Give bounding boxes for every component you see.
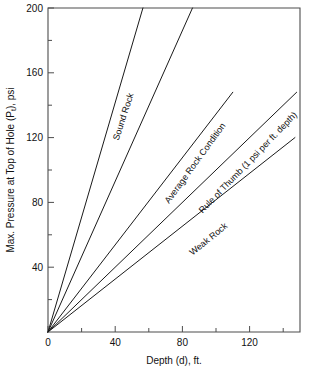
chart-canvas: 040801204080120160200 Sound RockAverage … bbox=[0, 0, 310, 376]
y-axis-title-main: Max. Pressure at Top of Hole (P bbox=[5, 111, 16, 253]
y-tick-label: 120 bbox=[26, 132, 43, 143]
x-axis-title: Depth (d), ft. bbox=[146, 355, 202, 366]
y-axis-title: Max. Pressure at Top of Hole (Pt), psi bbox=[5, 87, 17, 252]
y-tick-label: 200 bbox=[26, 3, 43, 14]
x-tick-label: 40 bbox=[110, 337, 122, 348]
chart-figure: 040801204080120160200 Sound RockAverage … bbox=[0, 0, 310, 376]
y-tick-label: 80 bbox=[32, 197, 44, 208]
y-axis-title-tail: ), psi bbox=[5, 87, 16, 109]
x-tick-label: 120 bbox=[241, 337, 258, 348]
y-tick-label: 40 bbox=[32, 262, 44, 273]
chart-background bbox=[0, 0, 310, 376]
y-tick-label: 160 bbox=[26, 67, 43, 78]
x-tick-label: 80 bbox=[177, 337, 189, 348]
x-tick-label: 0 bbox=[45, 337, 51, 348]
svg-text:Max. Pressure at Top of Hole (: Max. Pressure at Top of Hole (Pt), psi bbox=[5, 87, 17, 252]
